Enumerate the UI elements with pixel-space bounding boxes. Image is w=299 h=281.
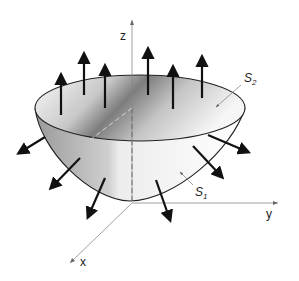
- s1-label: S1: [195, 186, 207, 203]
- s2-label: S2: [244, 72, 256, 89]
- x-axis-label: x: [80, 256, 86, 268]
- surface-diagram: [0, 0, 299, 281]
- y-axis-label: y: [266, 208, 272, 220]
- diagram-canvas: z y x S2 S1: [0, 0, 299, 281]
- x-axis: [70, 203, 132, 263]
- surface-s2: [35, 75, 245, 141]
- z-axis-label: z: [120, 30, 126, 42]
